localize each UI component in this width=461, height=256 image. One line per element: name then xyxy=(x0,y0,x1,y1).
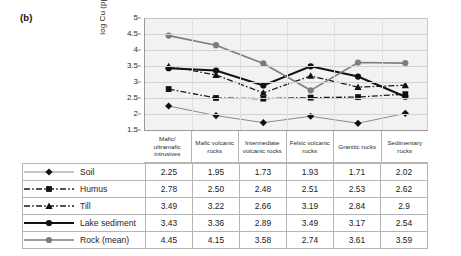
data-table: Soil2.251.951.731.931.712.02Humus2.782.5… xyxy=(22,163,428,249)
category-separator xyxy=(240,18,241,130)
data-cell: 3.36 xyxy=(193,215,240,232)
y-axis-tick-label: 3.5 xyxy=(127,62,138,70)
y-axis-title: log Cu (ppm) xyxy=(98,0,112,56)
data-cell: 3.22 xyxy=(193,198,240,215)
category-label-4: Felsic volcanic rocks xyxy=(287,131,335,162)
table-row: Humus2.782.502.482.512.532.62 xyxy=(23,181,428,198)
data-cell: 2.9 xyxy=(381,198,428,215)
legend-label: Soil xyxy=(80,167,94,177)
legend-cell-rock-mean: Rock (mean) xyxy=(23,232,146,249)
data-cell: 1.93 xyxy=(287,164,334,181)
table-row: Soil2.251.951.731.931.712.02 xyxy=(23,164,428,181)
data-cell: 1.73 xyxy=(240,164,287,181)
data-cell: 1.71 xyxy=(334,164,381,181)
data-cell: 3.19 xyxy=(287,198,334,215)
data-cell: 3.58 xyxy=(240,232,287,249)
gridline xyxy=(145,50,427,51)
chart-region: log Cu (ppm) 54.543.532.521.5 Mafic/ ult… xyxy=(0,0,461,150)
data-point-marker xyxy=(355,59,361,65)
data-cell: 3.49 xyxy=(287,215,334,232)
data-point-marker xyxy=(46,220,52,226)
data-cell: 2.84 xyxy=(334,198,381,215)
table-row: Lake sediment3.433.362.893.493.172.54 xyxy=(23,215,428,232)
data-cell: 2.53 xyxy=(334,181,381,198)
data-cell: 2.02 xyxy=(381,164,428,181)
data-table-body: Soil2.251.951.731.931.712.02Humus2.782.5… xyxy=(23,164,428,249)
legend-swatch-till xyxy=(23,199,75,213)
data-cell: 1.95 xyxy=(193,164,240,181)
data-cell: 2.89 xyxy=(240,215,287,232)
data-point-marker xyxy=(354,120,361,127)
legend-label: Humus xyxy=(80,184,107,194)
data-point-marker xyxy=(213,67,219,73)
gridline xyxy=(145,114,427,115)
legend-cell-lake-sediment: Lake sediment xyxy=(23,215,146,232)
data-cell: 2.74 xyxy=(287,232,334,249)
gridline xyxy=(145,98,427,99)
legend-swatch-soil xyxy=(23,165,75,179)
data-point-marker xyxy=(260,119,267,126)
data-cell: 2.51 xyxy=(287,181,334,198)
data-cell: 4.15 xyxy=(193,232,240,249)
y-axis-tick-mark xyxy=(138,114,141,115)
data-point-marker xyxy=(165,102,172,109)
data-cell: 2.66 xyxy=(240,198,287,215)
y-axis-tick-mark xyxy=(138,82,141,83)
data-cell: 2.78 xyxy=(146,181,193,198)
gridline xyxy=(145,18,427,19)
y-axis-tick-mark xyxy=(138,66,141,67)
gridline xyxy=(145,66,427,67)
legend-label: Rock (mean) xyxy=(80,235,129,245)
plot-area xyxy=(144,18,428,130)
legend-swatch-humus xyxy=(23,182,75,196)
table-row: Rock (mean)4.454.153.582.743.613.59 xyxy=(23,232,428,249)
gridline xyxy=(145,34,427,35)
data-point-marker xyxy=(46,237,52,243)
data-cell: 2.62 xyxy=(381,181,428,198)
category-header-row: Mafic/ ultramafic intrusivesMafic volcan… xyxy=(144,130,428,163)
data-point-marker xyxy=(307,72,314,79)
gridline xyxy=(145,82,427,83)
data-point-marker xyxy=(166,86,172,92)
data-cell: 2.48 xyxy=(240,181,287,198)
data-point-marker xyxy=(260,82,266,88)
data-cell: 3.59 xyxy=(381,232,428,249)
y-axis-ticks: 54.543.532.521.5 xyxy=(116,18,141,130)
data-point-marker xyxy=(46,186,52,192)
category-separator xyxy=(334,18,335,130)
y-axis-tick-mark xyxy=(138,18,141,19)
legend-cell-soil: Soil xyxy=(23,164,146,181)
data-point-marker xyxy=(355,73,361,79)
y-axis-tick-label: 2.5 xyxy=(127,94,138,102)
data-cell: 3.61 xyxy=(334,232,381,249)
y-axis-tick-mark xyxy=(138,130,141,131)
category-separator xyxy=(287,18,288,130)
y-axis-tick-mark xyxy=(138,34,141,35)
legend-swatch-rock-mean xyxy=(23,233,75,247)
legend-label: Lake sediment xyxy=(80,218,136,228)
category-separator xyxy=(192,18,193,130)
data-point-marker xyxy=(308,87,314,93)
category-label-1: Mafic/ ultramafic intrusives xyxy=(144,131,192,162)
y-axis-tick-label: 4.5 xyxy=(127,30,138,38)
legend-swatch-lake-sediment xyxy=(23,216,75,230)
data-cell: 3.49 xyxy=(146,198,193,215)
category-label-5: Granitic rocks xyxy=(334,131,382,162)
y-axis-tick-mark xyxy=(138,50,141,51)
legend-label: Till xyxy=(80,201,91,211)
y-axis-tick-mark xyxy=(138,98,141,99)
y-axis-tick-label: 1.5 xyxy=(127,126,138,134)
table-row: Till3.493.222.663.192.842.9 xyxy=(23,198,428,215)
data-cell: 2.25 xyxy=(146,164,193,181)
data-point-marker xyxy=(213,42,219,48)
data-cell: 4.45 xyxy=(146,232,193,249)
category-label-6: Sedimentary rocks xyxy=(382,131,429,162)
category-separator xyxy=(382,18,383,130)
data-cell: 2.54 xyxy=(381,215,428,232)
legend-cell-humus: Humus xyxy=(23,181,146,198)
legend-cell-till: Till xyxy=(23,198,146,215)
data-cell: 3.43 xyxy=(146,215,193,232)
data-cell: 2.50 xyxy=(193,181,240,198)
data-point-marker xyxy=(45,168,52,175)
category-label-3: Intermediate volcanic rocks xyxy=(239,131,287,162)
